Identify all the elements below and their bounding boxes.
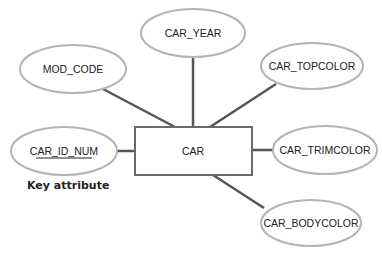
attribute-car-bodycolor: CAR_BODYCOLOR [261, 200, 361, 246]
key-attribute-label: CAR_ID_NUM [30, 145, 98, 157]
attribute-label: CAR_BODYCOLOR [263, 217, 359, 229]
attribute-car-id-num: CAR_ID_NUM [11, 127, 117, 175]
attribute-label: CAR_TOPCOLOR [269, 60, 356, 72]
attribute-car-trimcolor: CAR_TRIMCOLOR [273, 126, 377, 174]
connector-car-bodycolor [213, 175, 264, 208]
entity-label: CAR [182, 145, 205, 157]
attribute-label: MOD_CODE [43, 63, 104, 75]
key-attribute-annotation: Key attribute [27, 179, 109, 192]
attribute-mod-code: MOD_CODE [20, 45, 126, 93]
entity-car: CAR [135, 127, 252, 175]
attribute-car-topcolor: CAR_TOPCOLOR [261, 43, 363, 89]
connector-car-topcolor [210, 84, 276, 127]
attribute-label: CAR_TRIMCOLOR [279, 144, 370, 156]
connector-mod-code [103, 89, 175, 127]
attribute-car-year: CAR_YEAR [141, 9, 245, 57]
er-diagram: CAR_YEAR MOD_CODE CAR_TOPCOLOR CAR_ID_NU… [0, 0, 382, 256]
attribute-label: CAR_YEAR [165, 27, 222, 39]
